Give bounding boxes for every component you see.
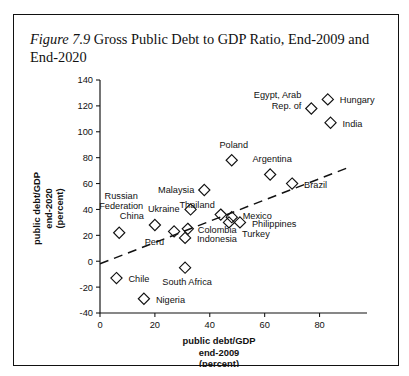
point-label: Chile — [128, 274, 149, 284]
y-tick-label: 100 — [77, 127, 93, 137]
diamond-marker — [322, 94, 333, 105]
point-label: Nigeria — [156, 295, 186, 305]
point-label: Rep. of — [272, 101, 302, 111]
y-tick-label: -40 — [80, 308, 93, 318]
data-point: Peru — [145, 226, 180, 248]
x-axis-title: public debt/GDPend-2009(percent) — [183, 335, 256, 367]
data-point: Malaysia — [158, 184, 210, 195]
point-label: Egypt, Arab — [254, 90, 302, 100]
y-axis-title-line: public debt/GDP — [31, 172, 42, 245]
diamond-marker — [138, 293, 149, 304]
data-point: Chile — [111, 272, 150, 284]
figure-frame: Figure 7.9 Gross Public Debt to GDP Rati… — [13, 14, 399, 366]
data-point: Hungary — [322, 94, 375, 106]
y-tick-label: 80 — [83, 153, 93, 163]
y-tick-label: 140 — [77, 75, 93, 85]
y-tick-label: -20 — [80, 283, 93, 293]
diamond-marker — [325, 117, 336, 128]
point-label: Poland — [219, 140, 248, 150]
x-tick-label: 80 — [314, 320, 324, 330]
plot-svg: -40-20020406080100120140020406080Russian… — [14, 15, 400, 367]
point-label: China — [120, 211, 145, 221]
diamond-marker — [306, 103, 317, 114]
point-label: Brazil — [304, 180, 327, 190]
point-label: Federation — [99, 201, 143, 211]
y-tick-label: 20 — [83, 231, 93, 241]
y-tick-label: 0 — [88, 257, 93, 267]
diamond-marker — [199, 184, 210, 195]
data-point: Brazil — [287, 178, 328, 190]
point-label: India — [343, 119, 364, 129]
point-label: Russian — [105, 191, 138, 201]
diamond-marker — [226, 155, 237, 166]
y-tick-label: 40 — [83, 205, 93, 215]
diamond-marker — [179, 262, 190, 273]
x-tick-label: 40 — [205, 320, 215, 330]
data-point: Argentina — [252, 154, 292, 180]
diamond-marker — [265, 169, 276, 180]
data-point: South Africa — [162, 262, 212, 287]
x-axis-title-line: end-2009 — [199, 347, 240, 358]
y-tick-label: 120 — [77, 101, 93, 111]
point-label: Philippines — [252, 219, 297, 229]
diamond-marker — [111, 272, 122, 283]
y-axis-title-line: (percent) — [54, 188, 65, 228]
x-tick-label: 60 — [259, 320, 269, 330]
scatter-plot: -40-20020406080100120140020406080Russian… — [14, 15, 400, 367]
point-label: Malaysia — [158, 185, 195, 195]
y-axis-title-line: end-2020 — [43, 188, 54, 229]
point-label: Argentina — [252, 154, 292, 164]
point-label: Hungary — [340, 95, 375, 105]
point-label: Ukraine — [148, 204, 180, 214]
x-tick-label: 0 — [97, 320, 102, 330]
y-axis-title: public debt/GDPend-2020(percent) — [31, 172, 65, 245]
data-point: Egypt, ArabRep. of — [254, 90, 317, 114]
diamond-marker — [114, 227, 125, 238]
point-label: Turkey — [242, 229, 270, 239]
x-tick-label: 20 — [150, 320, 160, 330]
data-point: Poland — [219, 140, 248, 166]
point-label: Peru — [145, 237, 164, 247]
point-label: Indonesia — [197, 234, 238, 244]
point-label: South Africa — [162, 277, 212, 287]
data-point: India — [325, 117, 363, 129]
y-tick-label: 60 — [83, 179, 93, 189]
x-axis-title-line: public debt/GDP — [183, 335, 256, 346]
diamond-marker — [149, 219, 160, 230]
data-point: Nigeria — [138, 293, 186, 305]
x-axis-title-line: (percent) — [199, 358, 239, 367]
point-label: Thailand — [180, 200, 215, 210]
